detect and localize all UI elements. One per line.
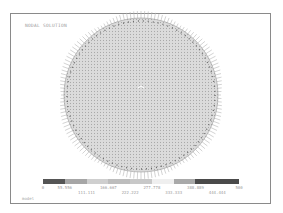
legend-band xyxy=(195,179,217,184)
legend-label: 388.889 xyxy=(187,185,204,190)
legend-band xyxy=(217,179,239,184)
contour-legend-bar xyxy=(43,179,239,184)
legend-band xyxy=(108,179,130,184)
legend-band xyxy=(87,179,109,184)
legend-band xyxy=(43,179,65,184)
legend-label: 166.667 xyxy=(100,185,117,190)
legend-label: 111.111 xyxy=(78,190,95,195)
legend-label: 222.222 xyxy=(122,190,139,195)
legend-band xyxy=(65,179,87,184)
mesh-disk xyxy=(64,18,218,172)
legend-label: 500 xyxy=(235,185,242,190)
legend-label: 444.444 xyxy=(209,190,226,195)
legend-label: 277.778 xyxy=(143,185,160,190)
legend-band xyxy=(174,179,196,184)
legend-band xyxy=(152,179,174,184)
footer-label: model xyxy=(22,196,34,201)
legend-label: 55.556 xyxy=(58,185,72,190)
legend-label: 333.333 xyxy=(165,190,182,195)
legend-label: 0 xyxy=(42,185,44,190)
legend-band xyxy=(130,179,152,184)
